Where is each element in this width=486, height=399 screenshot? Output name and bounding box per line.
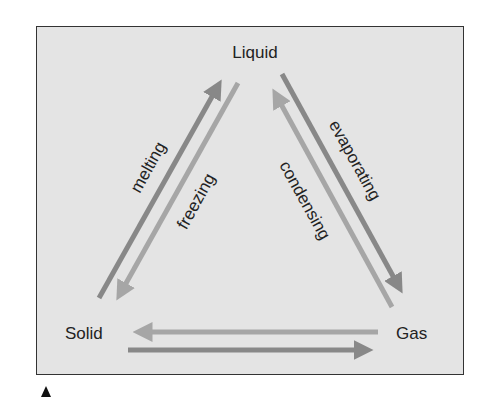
- phase-change-diagram: Liquid Solid Gas melting freezing evapor…: [0, 0, 486, 399]
- node-gas: Gas: [396, 324, 427, 343]
- triangle-marker-icon: [41, 386, 51, 397]
- label-freezing: freezing: [173, 170, 219, 232]
- node-liquid: Liquid: [232, 43, 277, 62]
- label-evaporating: evaporating: [325, 117, 385, 204]
- node-solid: Solid: [65, 324, 103, 343]
- label-condensing: condensing: [275, 158, 334, 243]
